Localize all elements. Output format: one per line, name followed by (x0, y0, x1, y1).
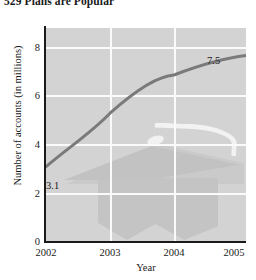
x-tick-label-2005: 2005 (214, 247, 254, 258)
chart-title: 529 Plans are Popular (4, 0, 114, 7)
data-label-7-5: 7.5 (207, 55, 220, 66)
x-axis-title: Year (46, 262, 246, 273)
x-tick-label-2003: 2003 (90, 247, 130, 258)
x-tick-label-2002: 2002 (26, 247, 66, 258)
figure-529-plans: 529 Plans are Popular 0 2 4 6 8 2002 200… (0, 0, 256, 280)
y-axis-title: Number of accounts (in millions) (12, 31, 23, 201)
x-tick-label-2004: 2004 (154, 247, 194, 258)
x-axis-line (44, 241, 246, 243)
y-axis-line (44, 26, 46, 243)
data-label-3-1: 3.1 (46, 180, 59, 191)
y-tick-label-0: 0 (4, 236, 40, 247)
